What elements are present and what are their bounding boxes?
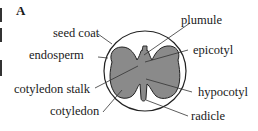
label-cotyledon: cotyledon (50, 104, 99, 118)
plumule-shape (142, 46, 147, 51)
label-endosperm: endosperm (29, 48, 84, 62)
label-hypocotyl: hypocotyl (198, 85, 248, 99)
label-plumule: plumule (181, 13, 222, 27)
label-seed-coat: seed coat (53, 26, 99, 40)
label-radicle: radicle (191, 109, 225, 123)
label-epicotyl: epicotyl (193, 43, 233, 57)
label-cotyledon-stalk: cotyledon stalk (14, 82, 90, 96)
